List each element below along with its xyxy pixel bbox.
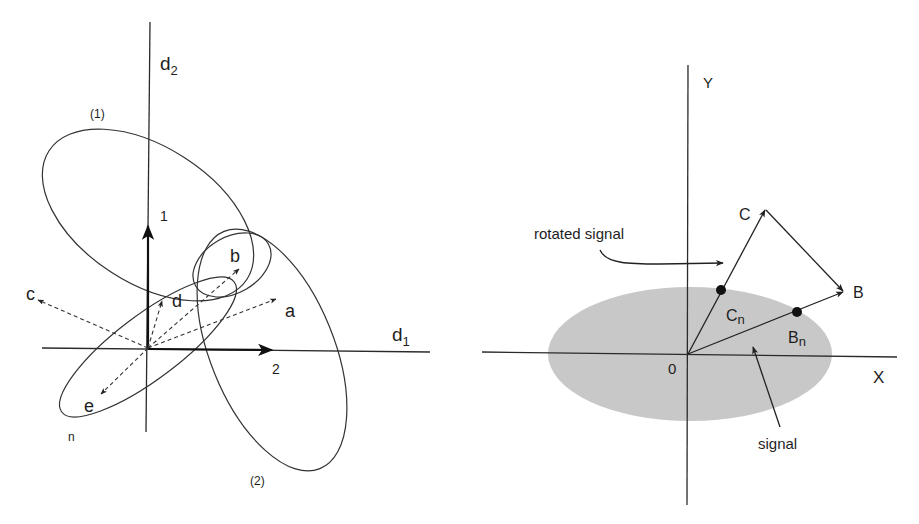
basis-vector-2: [148, 349, 272, 350]
ellipse-label-n: n: [68, 430, 75, 444]
right-panel: Y X 0 C B Cn Bn rotated signal signal: [482, 65, 897, 505]
y-axis: [687, 65, 688, 505]
y-axis-label: Y: [703, 74, 713, 91]
rotated-signal-label: rotated signal: [534, 225, 624, 242]
vector-label-a: a: [285, 301, 296, 321]
origin-label: 0: [668, 360, 676, 377]
vector-a: [148, 299, 276, 348]
vector-label-b: b: [230, 246, 240, 266]
point-label-c: C: [739, 206, 751, 223]
d2-axis-label: d2: [160, 53, 178, 78]
vector-d: [148, 301, 162, 348]
vector-c: [38, 300, 148, 348]
x-axis-label: X: [873, 368, 884, 387]
ellipse-label-1: (1): [90, 107, 105, 121]
ellipse-label-2: (2): [250, 474, 265, 488]
rotated-signal-arrow: [600, 250, 723, 264]
vector-label-e: e: [84, 396, 94, 416]
basis-label-2: 2: [272, 361, 280, 377]
diagram-canvas: d2 d1 1 2 a b c d e (1) (2) n Y X 0: [0, 0, 919, 524]
vector-cb: [766, 210, 843, 291]
left-panel: d2 d1 1 2 a b c d e (1) (2) n: [12, 22, 430, 492]
point-bn: [792, 307, 802, 317]
vector-e: [101, 348, 148, 394]
signal-label: signal: [758, 435, 797, 452]
basis-label-1: 1: [160, 208, 168, 224]
point-cn: [716, 285, 726, 295]
vector-label-c: c: [26, 284, 35, 304]
vector-label-d: d: [172, 291, 182, 311]
d1-axis-label: d1: [392, 324, 410, 349]
point-label-b: B: [853, 284, 864, 301]
